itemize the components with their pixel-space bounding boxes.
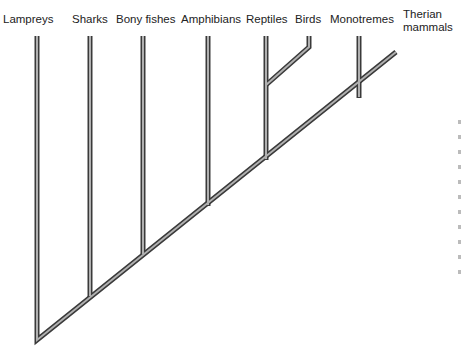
taxon-label-monotremes: Monotremes: [330, 13, 394, 26]
taxon-label-reptiles: Reptiles: [246, 13, 288, 26]
taxon-label-amphibians: Amphibians: [181, 13, 241, 26]
taxon-label-birds: Birds: [295, 13, 321, 26]
branch-fills: [37, 36, 396, 340]
cladogram: [0, 0, 464, 355]
taxon-label-lampreys: Lampreys: [3, 13, 54, 26]
taxon-label-therian-line2: mammals: [403, 21, 453, 34]
taxon-label-bony-fishes: Bony fishes: [116, 13, 175, 26]
cropped-edge-text: [456, 120, 462, 300]
taxon-label-sharks: Sharks: [72, 13, 108, 26]
branch-birds: [266, 36, 309, 85]
taxon-label-therian-line1: Therian: [403, 8, 453, 21]
taxon-label-therian-mammals: Therian mammals: [403, 8, 453, 34]
